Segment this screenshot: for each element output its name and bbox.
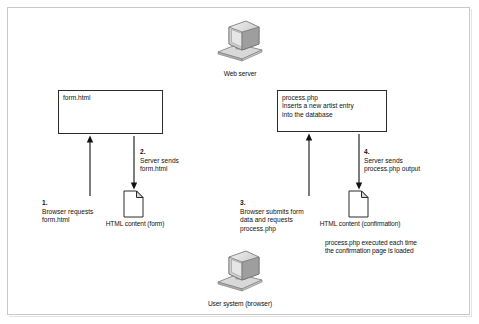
user-system-label: User system (browser) [182, 300, 298, 308]
process-php-box-text: process.php Inserts a new artist entry i… [282, 94, 354, 119]
step-4-text: Server sends process.php output [364, 157, 420, 172]
form-html-box-text: form.html [63, 94, 90, 102]
web-server-label: Web server [192, 70, 288, 78]
process-php-box: process.php Inserts a new artist entry i… [277, 90, 387, 132]
step-3-label: 3. Browser submits form data and request… [240, 191, 340, 233]
step-3-number: 3. [240, 199, 246, 206]
step-4-number: 4. [364, 148, 370, 155]
web-server-icon [212, 18, 268, 72]
step-2-number: 2. [140, 148, 146, 155]
form-html-box: form.html [58, 90, 163, 134]
step-2-label: 2. Server sends form.html [140, 140, 226, 174]
step-4-label: 4. Server sends process.php output [364, 140, 464, 174]
user-system-icon [212, 248, 268, 302]
step-1-number: 1. [42, 199, 48, 206]
process-php-note: process.php executed each time the confi… [325, 239, 471, 255]
step-1-text: Browser requests form.html [42, 208, 93, 223]
step-2-text: Server sends form.html [140, 157, 179, 172]
html-content-confirmation-document-icon [348, 190, 370, 222]
step-1-label: 1. Browser requests form.html [42, 191, 138, 225]
diagram-figure: Web server User system (browser) form.ht… [0, 0, 479, 324]
step-3-text: Browser submits form data and requests p… [240, 208, 304, 232]
